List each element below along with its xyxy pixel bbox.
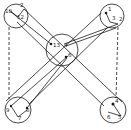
node-label-center: 13 bbox=[53, 42, 60, 48]
band-tl-br-a bbox=[24, 9, 122, 102]
node-label-top-right: 1 bbox=[108, 6, 112, 12]
dashed-link-right bbox=[116, 27, 118, 98]
node-dot bbox=[10, 105, 12, 107]
band-tl-br-b bbox=[17, 22, 104, 106]
cluster-bottom-right bbox=[100, 97, 126, 123]
link-center-bl-1 bbox=[11, 56, 68, 106]
node-label-center: 4 bbox=[64, 42, 68, 48]
link-center-bl-2 bbox=[27, 58, 67, 108]
band-tr-bl-a bbox=[6, 13, 101, 101]
node-label-bottom-left: 8 bbox=[26, 107, 30, 113]
node-label-bottom-right: 6 bbox=[107, 114, 111, 120]
node-label-bottom-right: 5 bbox=[118, 114, 122, 120]
node-label-bottom-left: 9 bbox=[6, 107, 10, 113]
node-dot bbox=[50, 43, 53, 46]
link-center-tr-1 bbox=[64, 24, 118, 44]
node-dot bbox=[65, 56, 68, 59]
node-label-bottom-left: 7 bbox=[18, 115, 22, 121]
node-label-top-right: 2 bbox=[119, 16, 123, 22]
node-dot bbox=[105, 12, 108, 15]
band-tr-bl-b bbox=[29, 27, 108, 104]
node-label-top-right: 3 bbox=[112, 15, 116, 21]
node-label-bottom-right: 4 bbox=[115, 98, 119, 104]
circle-network-diagram: 102121321346978465 bbox=[0, 0, 131, 130]
node-label-center: 6 bbox=[68, 52, 72, 58]
node-label-top-left: 2 bbox=[20, 2, 24, 8]
node-label-top-left: 10 bbox=[5, 8, 12, 14]
node-label-top-left: 12 bbox=[17, 14, 24, 20]
